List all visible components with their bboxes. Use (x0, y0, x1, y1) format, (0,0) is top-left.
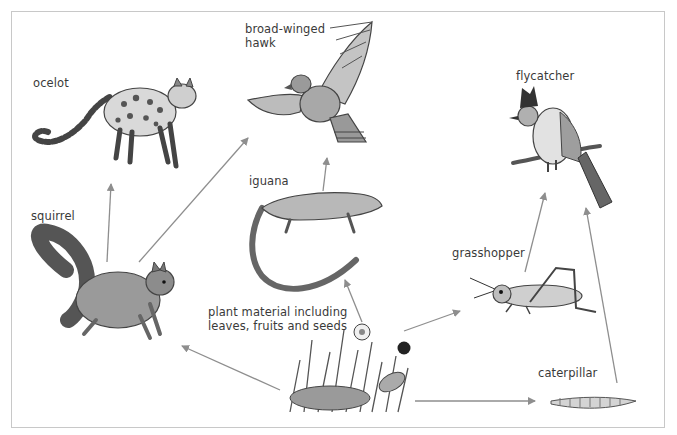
arrow-plant-to-grasshopper (404, 311, 460, 331)
plant-material-illustration (290, 324, 411, 412)
arrow-plant-to-iguana (345, 280, 362, 322)
label-caterpillar: caterpillar (538, 366, 597, 380)
arrow-squirrel-to-ocelot (107, 184, 111, 262)
label-plant-material: plant material including leaves, fruits … (208, 305, 347, 333)
caterpillar-illustration (551, 397, 636, 408)
flycatcher-illustration (509, 86, 612, 208)
label-flycatcher: flycatcher (516, 69, 574, 83)
arrows (107, 138, 617, 401)
grasshopper-illustration (470, 268, 596, 314)
squirrel-illustration (39, 232, 174, 338)
label-broad-winged-hawk: broad-winged hawk (245, 22, 325, 50)
arrow-caterpillar-to-flycatcher (586, 208, 617, 383)
arrow-squirrel-to-hawk (139, 138, 248, 262)
ocelot-illustration (35, 78, 196, 166)
iguana-illustration (252, 193, 382, 289)
label-grasshopper: grasshopper (452, 246, 525, 260)
arrow-iguana-to-hawk (323, 158, 327, 191)
label-squirrel: squirrel (31, 209, 75, 223)
label-ocelot: ocelot (33, 76, 69, 90)
arrow-grasshopper-to-flycatcher (525, 193, 545, 272)
arrow-plant-to-squirrel (182, 346, 280, 390)
label-iguana: iguana (249, 174, 289, 188)
